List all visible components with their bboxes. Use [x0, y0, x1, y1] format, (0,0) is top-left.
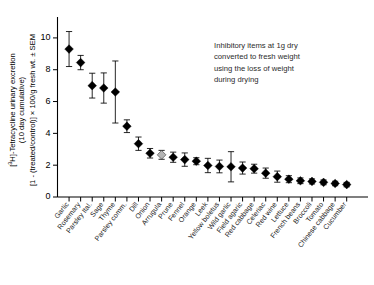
- data-point: [88, 81, 97, 90]
- y-tick-label: 4: [45, 128, 50, 138]
- figure-panel: 0246810GarlicRosemaryParsley Ital.SageTh…: [0, 0, 374, 285]
- data-point-highlighted: [157, 150, 166, 159]
- y-tick-label: 8: [45, 64, 50, 74]
- annotation-block: Inhibitory items at 1g dryconverted to f…: [214, 41, 301, 84]
- x-tick-group: [69, 197, 347, 202]
- y-tick-label: 10: [40, 32, 50, 42]
- y-tick-label: 0: [45, 191, 50, 201]
- y-axis-label-line: [1 - (treated/control)] × 100/g fresh wt…: [28, 34, 37, 186]
- data-point: [76, 58, 85, 67]
- data-point-group: [65, 45, 351, 189]
- annotation-line: converted to fresh weight: [214, 52, 301, 61]
- x-tick-label-group: GarlicRosemaryParsley Ital.SageThymePars…: [53, 200, 349, 249]
- y-axis-label: [3H]-Tetracycline urinary excretion(10 d…: [7, 34, 36, 186]
- data-point: [342, 180, 351, 189]
- data-point: [273, 172, 282, 181]
- data-point: [319, 178, 328, 187]
- y-tick-label: 6: [45, 96, 50, 106]
- data-point: [99, 84, 108, 93]
- data-point: [123, 122, 132, 131]
- annotation-line: Inhibitory items at 1g dry: [214, 41, 298, 50]
- data-point: [204, 161, 213, 170]
- data-point: [261, 169, 270, 178]
- data-point: [215, 162, 224, 171]
- data-point: [169, 153, 178, 162]
- data-point: [250, 164, 259, 173]
- y-tick-group: 0246810: [40, 32, 57, 201]
- axes: [58, 17, 369, 197]
- data-point: [331, 179, 340, 188]
- data-point: [238, 164, 247, 173]
- data-point: [285, 175, 294, 184]
- data-point: [192, 157, 201, 166]
- y-tick-label: 2: [45, 160, 50, 170]
- data-point: [227, 162, 236, 171]
- scatter-plot: 0246810GarlicRosemaryParsley Ital.SageTh…: [0, 0, 374, 285]
- data-point: [308, 177, 317, 186]
- data-point: [134, 139, 143, 148]
- data-point: [180, 155, 189, 164]
- annotation-line: during drying: [214, 75, 258, 84]
- annotation-line: using the loss of weight: [214, 64, 295, 73]
- y-axis-label-line: [3H]-Tetracycline urinary excretion: [7, 53, 16, 167]
- y-axis-label-line: (10 day cumulative): [17, 76, 26, 143]
- data-point: [65, 45, 74, 54]
- data-point: [146, 149, 155, 158]
- data-point: [111, 88, 120, 97]
